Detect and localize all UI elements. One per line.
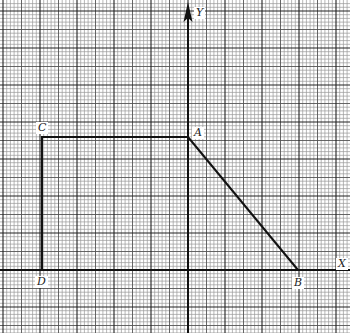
y-axis-label: Y xyxy=(194,7,205,19)
point-label-c: C xyxy=(36,122,48,134)
point-label-d: D xyxy=(35,276,48,288)
point-label-b: B xyxy=(292,277,304,289)
point-label-a: A xyxy=(192,127,204,139)
x-axis-label: X xyxy=(336,258,348,270)
graph-paper-diagram: Y X A B C D xyxy=(0,0,350,333)
